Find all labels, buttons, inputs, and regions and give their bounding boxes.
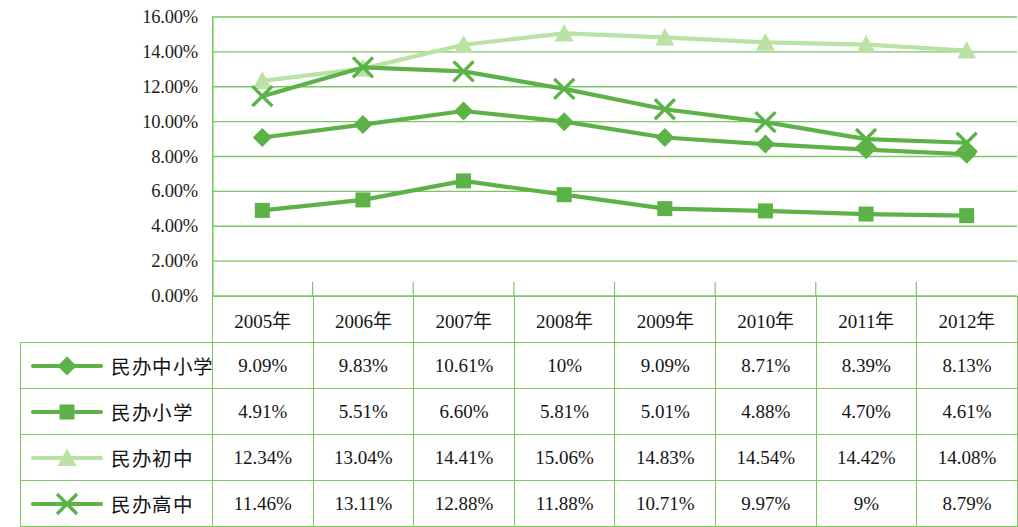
table-cell: 9%: [816, 481, 917, 527]
data-point-diamond: [655, 128, 674, 147]
table-cell: 9.09%: [615, 343, 716, 389]
table-cell: 4.70%: [816, 389, 917, 435]
table-cell: 5.81%: [514, 389, 615, 435]
square-marker-icon: [959, 208, 974, 223]
data-point-square: [60, 404, 75, 419]
data-point-diamond: [353, 115, 372, 134]
legend-entry: 民办初中: [21, 435, 212, 480]
table-cell: 10.71%: [615, 481, 716, 527]
table-cell: 6.60%: [414, 389, 515, 435]
data-point-square: [456, 173, 471, 188]
legend-cell-民办高中: 民办高中: [21, 481, 213, 527]
diamond-marker-icon: [58, 356, 77, 375]
table-row: 民办中小学9.09%9.83%10.61%10%9.09%8.71%8.39%8…: [21, 343, 1018, 389]
table-cell: 14.41%: [414, 435, 515, 481]
y-axis-tick-label: 8.00%: [151, 146, 198, 167]
table-cell: 14.54%: [715, 435, 816, 481]
column-header-2012年: 2012年: [917, 297, 1018, 343]
line-chart: 16.00%14.00%12.00%10.00%8.00%6.00%4.00%2…: [0, 0, 1017, 296]
table-cell: 4.88%: [715, 389, 816, 435]
diamond-marker-icon: [353, 115, 372, 134]
table-cell: 12.88%: [414, 481, 515, 527]
data-point-diamond: [555, 112, 574, 131]
column-header-2008年: 2008年: [514, 297, 615, 343]
data-point-square: [859, 207, 874, 222]
data-point-diamond: [253, 128, 272, 147]
table-cell: 5.01%: [615, 389, 716, 435]
data-point-diamond: [58, 356, 77, 375]
plot-area: [212, 0, 1017, 296]
legend-entry: 民办高中: [21, 481, 212, 526]
y-axis-tick-label: 16.00%: [142, 7, 198, 28]
legend-entry: 民办小学: [21, 389, 212, 434]
table-cell: 4.91%: [213, 389, 314, 435]
table-header-row: 2005年2006年2007年2008年2009年2010年2011年2012年: [21, 297, 1018, 343]
table-cell: 5.51%: [313, 389, 414, 435]
square-marker-icon: [355, 192, 370, 207]
table-corner-cell: [21, 297, 213, 343]
square-marker-icon: [657, 201, 672, 216]
diamond-marker-icon: [29, 352, 105, 380]
legend-cell-民办中小学: 民办中小学: [21, 343, 213, 389]
table-cell: 13.11%: [313, 481, 414, 527]
legend-label: 民办中小学: [111, 351, 214, 380]
table-cell: 13.04%: [313, 435, 414, 481]
data-point-diamond: [454, 101, 473, 120]
diamond-marker-icon: [555, 112, 574, 131]
square-marker-icon: [557, 187, 572, 202]
legend-cell-民办小学: 民办小学: [21, 389, 213, 435]
diamond-marker-icon: [253, 128, 272, 147]
table-cell: 9.83%: [313, 343, 414, 389]
table-cell: 8.79%: [917, 481, 1018, 527]
table-cell: 8.71%: [715, 343, 816, 389]
table-cell: 14.08%: [917, 435, 1018, 481]
triangle-marker-icon: [29, 444, 105, 472]
legend-label: 民办高中: [111, 489, 193, 518]
y-axis-tick-label: 6.00%: [151, 181, 198, 202]
y-axis-tick-label: 14.00%: [142, 41, 198, 62]
column-header-2007年: 2007年: [414, 297, 515, 343]
table-cell: 14.83%: [615, 435, 716, 481]
series-square: [255, 173, 974, 223]
table-cell: 9.97%: [715, 481, 816, 527]
y-axis-tick-label: 12.00%: [142, 76, 198, 97]
data-point-square: [758, 203, 773, 218]
table-row: 民办高中11.46%13.11%12.88%11.88%10.71%9.97%9…: [21, 481, 1018, 527]
data-point-square: [557, 187, 572, 202]
column-header-2005年: 2005年: [213, 297, 314, 343]
column-header-2006年: 2006年: [313, 297, 414, 343]
y-axis: 16.00%14.00%12.00%10.00%8.00%6.00%4.00%2…: [0, 0, 206, 296]
data-point-square: [355, 192, 370, 207]
series-cross: [252, 57, 976, 152]
legend-label: 民办初中: [111, 443, 193, 472]
table-cell: 9.09%: [213, 343, 314, 389]
data-point-square: [959, 208, 974, 223]
square-marker-icon: [859, 207, 874, 222]
column-header-2010年: 2010年: [715, 297, 816, 343]
column-header-2011年: 2011年: [816, 297, 917, 343]
diamond-marker-icon: [756, 135, 775, 154]
data-table: 2005年2006年2007年2008年2009年2010年2011年2012年…: [20, 296, 1018, 527]
column-header-2009年: 2009年: [615, 297, 716, 343]
table-row: 民办初中12.34%13.04%14.41%15.06%14.83%14.54%…: [21, 435, 1018, 481]
plot-svg: [212, 0, 1017, 296]
legend-entry: 民办中小学: [21, 343, 212, 388]
series-diamond: [253, 101, 976, 163]
table-cell: 8.13%: [917, 343, 1018, 389]
legend-label: 民办小学: [111, 397, 193, 426]
square-marker-icon: [758, 203, 773, 218]
square-marker-icon: [29, 398, 105, 426]
diamond-marker-icon: [655, 128, 674, 147]
table-cell: 14.42%: [816, 435, 917, 481]
data-point-square: [657, 201, 672, 216]
table-cell: 11.88%: [514, 481, 615, 527]
data-point-square: [255, 203, 270, 218]
table-cell: 12.34%: [213, 435, 314, 481]
square-marker-icon: [60, 404, 75, 419]
diamond-marker-icon: [454, 101, 473, 120]
cross-marker-icon: [29, 490, 105, 518]
square-marker-icon: [456, 173, 471, 188]
y-axis-tick-label: 2.00%: [151, 251, 198, 272]
y-axis-tick-label: 10.00%: [142, 111, 198, 132]
